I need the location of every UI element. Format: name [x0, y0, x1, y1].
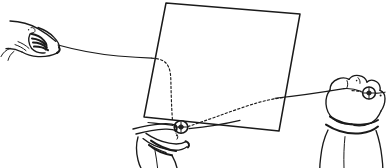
bottom-hand-index-top: [133, 124, 176, 129]
right-hand-sleeve-left: [320, 130, 328, 168]
left-hand-knuckle-dot: [28, 29, 29, 30]
right-hand-cuff-top: [330, 117, 378, 125]
bottom-hand-index-bottom: [136, 129, 177, 134]
right-hand-knuckle-2: [349, 75, 367, 82]
left-hand-pinky-stub-2: [8, 51, 14, 60]
thread-behind-fabric-left: [152, 58, 172, 119]
bottom-hand-wrist-right: [172, 155, 177, 168]
left-hand-folded-finger-bottom: [32, 49, 45, 53]
thread-behind-fabric-right: [188, 97, 284, 126]
fabric-square-outline: [144, 3, 300, 131]
button-right-thread-knot: [380, 94, 382, 96]
left-hand-folded-finger-left-edge: [29, 34, 32, 48]
right-hand-knuckle-4: [380, 90, 385, 111]
thread-behind-fabric-left-path: [152, 58, 172, 119]
right-hand-knuckle-crease-1: [347, 81, 348, 88]
fabric-square: [144, 3, 300, 131]
bottom-hand-side: [137, 137, 142, 168]
bottom-hand-knuckle-line: [155, 151, 158, 168]
left-hand-palm-crease: [18, 42, 29, 49]
right-hand-knuckle-crease-2: [358, 78, 360, 84]
left-hand-fingernail: [31, 28, 35, 33]
bottom-hand-nail: [176, 134, 178, 140]
illustration-canvas: Line drawing: a left hand pulls a thread…: [0, 0, 391, 168]
left-hand-pinky-stub: [1, 48, 10, 56]
left-hand: [1, 21, 60, 60]
right-hand-detail-dot: [356, 80, 358, 82]
left-hand-index-tip: [57, 47, 60, 53]
right-hand-cuff-bottom: [326, 125, 378, 134]
thread-right-button-entry: [352, 91, 364, 93]
line-drawing: [0, 0, 391, 168]
right-hand-thumb-edge: [326, 90, 333, 119]
thread-behind-fabric-right-path: [188, 97, 284, 126]
thread-left-visible-path: [58, 45, 152, 58]
thread-left-visible: [58, 45, 152, 58]
right-hand-sleeve-right: [376, 131, 383, 168]
right-hand-sleeve-fold: [344, 137, 345, 168]
